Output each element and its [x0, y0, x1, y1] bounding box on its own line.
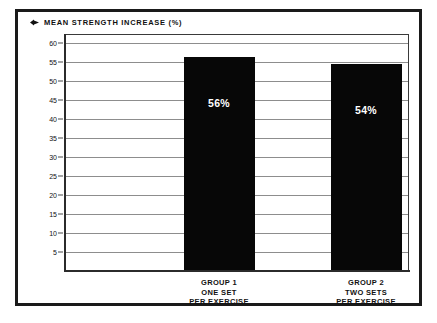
x-axis-category-label: GROUP 2TWO SETSPER EXERCISE [296, 278, 436, 307]
bar-value-label: 56% [208, 97, 230, 270]
y-axis-tick-label: 50 [49, 77, 57, 84]
diamond-marker-icon [30, 19, 39, 26]
y-axis-tick-mark [58, 118, 63, 119]
category-label-line: TWO SETS [296, 288, 436, 298]
bar: 54% [331, 64, 402, 270]
y-axis-tick-label: 60 [49, 39, 57, 46]
x-axis-category-label: GROUP 1ONE SETPER EXERCISE [149, 278, 289, 307]
y-axis-tick-mark [58, 251, 63, 252]
category-label-line: GROUP 2 [296, 278, 436, 288]
category-label-line: GROUP 1 [149, 278, 289, 288]
y-axis-tick-mark [58, 175, 63, 176]
y-axis-tick-label: 5 [53, 248, 57, 255]
chart-title-label: MEAN STRENGTH INCREASE (%) [44, 18, 182, 27]
y-axis-tick-label: 35 [49, 134, 57, 141]
y-axis-tick-mark [58, 42, 63, 43]
y-axis-tick-mark [58, 80, 63, 81]
y-axis-line [64, 34, 66, 272]
category-label-line: ONE SET [149, 288, 289, 298]
y-axis-tick-label: 40 [49, 115, 57, 122]
y-axis-tick-mark [58, 194, 63, 195]
category-label-line: PER EXERCISE [149, 297, 289, 307]
plot-area: 6055504540353025201510556%54% [64, 34, 409, 270]
y-axis-tick-label: 20 [49, 191, 57, 198]
gridline [64, 43, 408, 44]
y-axis-tick-label: 15 [49, 210, 57, 217]
x-axis-line [64, 270, 410, 272]
y-axis-tick-mark [58, 156, 63, 157]
y-axis-tick-label: 45 [49, 96, 57, 103]
y-axis-tick-mark [58, 137, 63, 138]
category-label-line: PER EXERCISE [296, 297, 436, 307]
y-axis-tick-label: 55 [49, 58, 57, 65]
y-axis-tick-mark [58, 99, 63, 100]
chart-frame: MEAN STRENGTH INCREASE (%) 6055504540353… [15, 9, 422, 306]
bar-value-label: 54% [355, 104, 377, 270]
y-axis-tick-mark [58, 232, 63, 233]
y-axis-tick-mark [58, 61, 63, 62]
chart-title: MEAN STRENGTH INCREASE (%) [30, 18, 182, 27]
y-axis-tick-label: 30 [49, 153, 57, 160]
bar: 56% [184, 57, 255, 270]
y-axis-tick-mark [58, 213, 63, 214]
y-axis-tick-label: 10 [49, 229, 57, 236]
y-axis-tick-label: 25 [49, 172, 57, 179]
